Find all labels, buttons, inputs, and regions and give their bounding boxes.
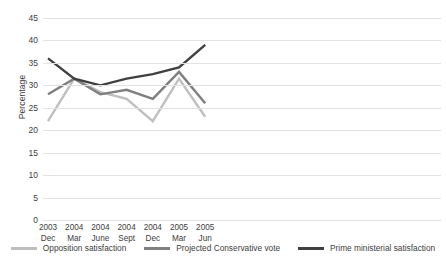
x-axis-year: 2004 [117,222,135,233]
gridline [43,40,441,41]
plot-area: 454035302520151050 [43,18,441,220]
gridline [43,153,441,154]
legend-label: Opposition satisfaction [43,243,126,253]
gridline [43,175,441,176]
gridline [43,85,441,86]
x-axis-category-label: 2003Dec [39,222,57,244]
x-axis-year: 2003 [39,222,57,233]
legend-swatch-icon [144,247,170,250]
y-axis-tick-label: 25 [0,103,38,113]
x-axis-category-label: 2004Sept [117,222,135,244]
y-axis-tick-label: 15 [0,148,38,158]
gridline [43,18,441,19]
x-axis-category-label: 2004June [91,222,109,244]
legend-item[interactable]: Prime ministerial satisfaction [298,243,435,253]
legend-swatch-icon [298,247,324,250]
y-axis-tick-label: 20 [0,125,38,135]
x-axis-year: 2005 [170,222,188,233]
legend-item[interactable]: Projected Conservative vote [144,243,280,253]
y-axis-tick-label: 45 [0,13,38,23]
gridline [43,198,441,199]
series-lines [43,18,441,220]
line-chart: Percentage 454035302520151050 2003Dec200… [0,0,446,272]
y-axis-tick-label: 30 [0,80,38,90]
gridline [43,63,441,64]
y-axis-tick-label: 35 [0,58,38,68]
y-axis-tick-label: 0 [0,215,38,225]
y-axis-tick-label: 40 [0,35,38,45]
legend-swatch-icon [11,247,37,250]
x-axis-category-label: 2005Mar [170,222,188,244]
legend-item[interactable]: Opposition satisfaction [11,243,126,253]
x-axis-year: 2004 [65,222,83,233]
gridline [43,130,441,131]
x-axis-year: 2004 [91,222,109,233]
x-axis-category-label: 2004Dec [144,222,162,244]
y-axis-tick-label: 10 [0,170,38,180]
x-axis-year: 2004 [144,222,162,233]
x-axis-category-label: 2004Mar [65,222,83,244]
chart-legend: Opposition satisfactionProjected Conserv… [0,243,446,253]
gridline [43,108,441,109]
x-axis-category-label: 2005Jun [196,222,214,244]
legend-label: Projected Conservative vote [176,243,280,253]
x-axis-year: 2005 [196,222,214,233]
legend-label: Prime ministerial satisfaction [330,243,435,253]
y-axis-tick-label: 5 [0,193,38,203]
gridline [43,220,441,221]
